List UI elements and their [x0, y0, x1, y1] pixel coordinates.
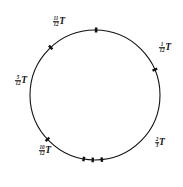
- period-circle: [30, 30, 160, 160]
- label-7-oclock-fraction: 1012: [39, 145, 45, 157]
- label-4-oclock: 23T: [155, 137, 165, 149]
- label-9-oclock-symbol: T: [21, 75, 27, 85]
- label-9-oclock-fraction: 512: [15, 75, 21, 87]
- label-9-oclock: 512T: [15, 75, 27, 87]
- label-11-oclock-denominator: 12: [53, 22, 59, 28]
- tick-right: [153, 69, 158, 71]
- label-1-oclock: 112T: [159, 42, 171, 54]
- label-4-oclock-symbol: T: [159, 137, 165, 147]
- label-7-oclock: 1012T: [39, 145, 51, 157]
- label-9-oclock-denominator: 12: [15, 81, 21, 87]
- tick-bottom-left: [83, 157, 84, 162]
- label-7-oclock-denominator: 12: [39, 151, 45, 157]
- label-1-oclock-symbol: T: [165, 42, 171, 52]
- label-11-oclock-fraction: 1112: [53, 16, 59, 28]
- circle-diagram-figure: 1112T112T512T1012T23T: [0, 0, 183, 187]
- label-7-oclock-symbol: T: [45, 145, 51, 155]
- label-4-oclock-fraction: 23: [155, 137, 159, 149]
- label-1-oclock-fraction: 112: [159, 42, 165, 54]
- label-11-oclock-symbol: T: [59, 16, 65, 26]
- label-1-oclock-denominator: 12: [159, 48, 165, 54]
- label-4-oclock-denominator: 3: [155, 143, 159, 149]
- label-11-oclock: 1112T: [53, 16, 65, 28]
- diagram-canvas: [0, 0, 183, 187]
